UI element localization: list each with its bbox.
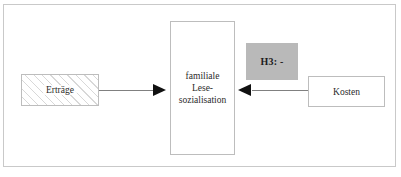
edge-ertraege-to-central-line: [99, 90, 154, 91]
node-central-label-line-1: familiale: [186, 71, 220, 81]
node-central-label-line-2: Lese-: [192, 83, 213, 93]
edge-ertraege-to-central-arrowhead-icon: [153, 84, 166, 96]
edge-kosten-to-central-line: [252, 90, 308, 91]
edge-kosten-to-central-arrowhead-icon: [238, 84, 251, 96]
diagram-canvas: Erträge familiale Lese- sozialisation H3…: [0, 0, 401, 177]
node-kosten[interactable]: Kosten: [308, 76, 385, 107]
node-kosten-label: Kosten: [333, 87, 360, 97]
hypothesis-tag-h3-label: H3: -: [261, 56, 284, 67]
node-familiale-lesesozialisation-label: familiale Lese- sozialisation: [171, 70, 234, 106]
hypothesis-tag-h3[interactable]: H3: -: [246, 43, 298, 80]
node-central-label-line-3: sozialisation: [179, 95, 227, 105]
node-familiale-lesesozialisation[interactable]: familiale Lese- sozialisation: [170, 21, 235, 155]
node-ertraege[interactable]: Erträge: [21, 74, 99, 106]
node-ertraege-label: Erträge: [43, 85, 77, 95]
